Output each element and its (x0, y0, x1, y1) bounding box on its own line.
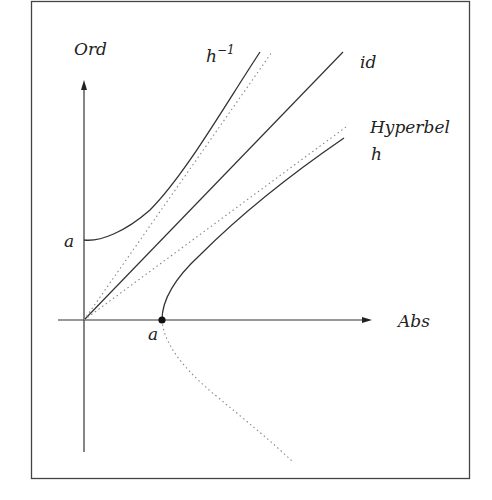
identity-label: id (360, 52, 376, 72)
hyperbola-title-label: Hyperbel (369, 117, 450, 137)
y-axis-label: Ord (74, 39, 107, 59)
inverse-curve (84, 52, 260, 240)
hyperbola-lower-branch (162, 320, 293, 462)
hyperbola-curve (162, 138, 344, 320)
inverse-label: h−1 (206, 43, 235, 66)
y-axis-arrow-icon (81, 80, 87, 90)
a-y-label: a (64, 231, 74, 251)
x-axis-arrow-icon (362, 317, 372, 323)
asymptote-h (84, 127, 346, 320)
inverse-label-base: h (206, 46, 217, 66)
a-x-label: a (148, 324, 158, 344)
hyperbola-fn-label: h (371, 144, 382, 164)
x-axis-label: Abs (396, 311, 430, 331)
identity-line (84, 52, 343, 320)
point-a (158, 316, 165, 323)
inverse-label-sup: −1 (217, 43, 235, 57)
hyperbola-diagram: Ord Abs h−1 id Hyperbel h a a (0, 0, 492, 500)
